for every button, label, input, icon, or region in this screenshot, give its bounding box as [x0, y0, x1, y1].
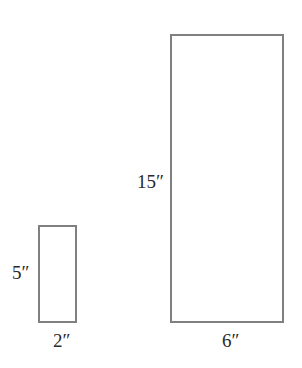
similar-rectangles-diagram: 5″ 2″ 15″ 6″: [0, 0, 302, 368]
large-rectangle-height-label: 15″: [137, 172, 164, 191]
small-rectangle-height-label: 5″: [12, 263, 29, 282]
small-rectangle: [38, 225, 77, 323]
small-rectangle-width-label: 2″: [53, 331, 70, 350]
large-rectangle: [170, 34, 284, 323]
large-rectangle-width-label: 6″: [222, 331, 239, 350]
